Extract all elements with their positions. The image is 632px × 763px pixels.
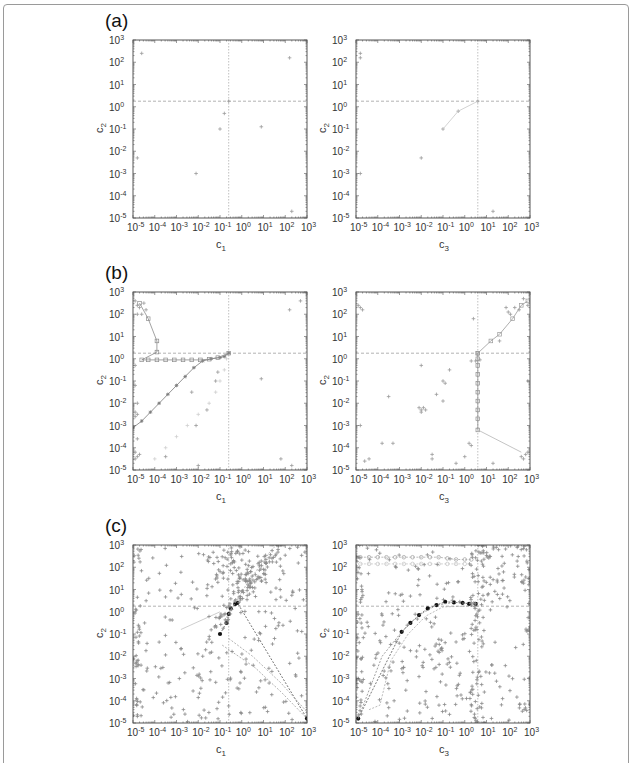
tick-labels: 10-510-410-310-210-110010110210310-510-4… (109, 286, 316, 485)
plot-c-left: 10-510-410-310-210-110010110210310-510-4… (133, 545, 307, 723)
tick-labels: 10-510-410-310-210-110010110210310-510-4… (109, 34, 316, 233)
plot-c-right: 10-510-410-310-210-110010110210310-510-4… (356, 545, 530, 723)
plot-area (132, 543, 310, 723)
plot-a-right: 10-510-410-310-210-110010110210310-510-4… (356, 40, 530, 218)
series-vertical-path (476, 351, 480, 431)
tick-labels: 10-510-410-310-210-110010110210310-510-4… (332, 34, 539, 233)
series-points (136, 52, 294, 214)
plot-area (131, 292, 307, 470)
plot-b-right: 10-510-410-310-210-110010110210310-510-4… (356, 292, 530, 470)
series-scatter (133, 299, 302, 467)
plot-a-left: 10-510-410-310-210-110010110210310-510-4… (133, 40, 307, 218)
plot-area (133, 40, 307, 218)
series-circle-row-lower (359, 562, 467, 566)
series-upper-branch (476, 299, 530, 355)
series-points (359, 52, 495, 214)
panel-label-b: (b) (105, 262, 128, 284)
plot-area (356, 292, 530, 470)
series-scatter (356, 297, 529, 465)
series-circle-row-upper (359, 555, 474, 561)
series-square-path (138, 301, 231, 361)
panel-label-a: (a) (105, 10, 128, 32)
series-lower-branch (478, 430, 522, 452)
series-trajectory (443, 101, 478, 129)
series-black-dots (356, 600, 478, 721)
series-faint-diagonal (153, 357, 228, 461)
plot-area (354, 544, 531, 725)
panel-label-c: (c) (105, 515, 127, 537)
series-black-dots (218, 601, 309, 721)
series-dashed-curve-1 (358, 602, 475, 718)
series-dense-scatter (354, 544, 531, 725)
tick-labels: 10-510-410-310-210-110010110210310-510-4… (332, 286, 539, 485)
plot-b-left: 10-510-410-310-210-110010110210310-510-4… (133, 292, 307, 470)
plot-area (356, 40, 530, 218)
tick-labels: 10-510-410-310-210-110010110210310-510-4… (109, 539, 316, 738)
